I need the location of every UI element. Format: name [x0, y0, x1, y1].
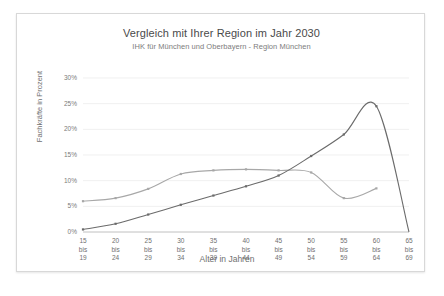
x-tick-line: 25 — [134, 237, 162, 246]
plot-area: Fachkräfte in Prozent Alter in Jahren 0%… — [17, 14, 426, 273]
x-tick-label: 50bis54 — [297, 237, 325, 263]
x-tick-label: 40bis44 — [232, 237, 260, 263]
data-point-marker — [343, 133, 345, 135]
x-tick-line: 44 — [232, 254, 260, 263]
x-tick-line: bis — [199, 246, 227, 255]
x-tick-line: 50 — [297, 237, 325, 246]
x-tick-label: 60bis64 — [362, 237, 390, 263]
x-tick-line: 24 — [102, 254, 130, 263]
x-tick-line: 39 — [199, 254, 227, 263]
x-tick-line: 54 — [297, 254, 325, 263]
data-point-marker — [180, 204, 182, 206]
x-tick-line: bis — [69, 246, 97, 255]
data-point-marker — [245, 168, 247, 170]
chart-plot-svg — [17, 14, 426, 273]
x-tick-line: 60 — [362, 237, 390, 246]
data-point-marker — [82, 228, 84, 230]
x-tick-label: 30bis34 — [167, 237, 195, 263]
series-line-1 — [83, 102, 409, 232]
x-tick-line: 19 — [69, 254, 97, 263]
x-tick-label: 65bis69 — [395, 237, 423, 263]
x-tick-line: 20 — [102, 237, 130, 246]
data-point-marker — [115, 223, 117, 225]
x-tick-line: 15 — [69, 237, 97, 246]
x-tick-line: 45 — [265, 237, 293, 246]
y-axis-title: Fachkräfte in Prozent — [35, 42, 44, 172]
x-tick-line: bis — [134, 246, 162, 255]
x-tick-label: 20bis24 — [102, 237, 130, 263]
x-tick-line: 64 — [362, 254, 390, 263]
data-point-marker — [147, 213, 149, 215]
data-point-marker — [343, 197, 345, 199]
data-point-marker — [375, 187, 377, 189]
data-point-marker — [115, 197, 117, 199]
data-point-marker — [245, 185, 247, 187]
x-tick-line: 49 — [265, 254, 293, 263]
y-tick-label: 30% — [51, 74, 77, 81]
x-tick-line: 65 — [395, 237, 423, 246]
x-tick-line: 30 — [167, 237, 195, 246]
y-tick-label: 20% — [51, 125, 77, 132]
x-tick-line: bis — [362, 246, 390, 255]
y-tick-label: 5% — [51, 202, 77, 209]
x-tick-line: 35 — [199, 237, 227, 246]
data-point-marker — [278, 169, 280, 171]
series-line-0 — [83, 169, 376, 201]
x-tick-label: 55bis59 — [330, 237, 358, 263]
data-point-marker — [82, 200, 84, 202]
data-point-marker — [212, 169, 214, 171]
x-tick-label: 35bis39 — [199, 237, 227, 263]
x-tick-line: bis — [330, 246, 358, 255]
data-point-marker — [212, 194, 214, 196]
x-tick-line: bis — [297, 246, 325, 255]
x-tick-line: bis — [102, 246, 130, 255]
y-tick-label: 15% — [51, 151, 77, 158]
x-tick-line: 55 — [330, 237, 358, 246]
data-point-marker — [147, 188, 149, 190]
x-tick-line: 69 — [395, 254, 423, 263]
x-tick-label: 45bis49 — [265, 237, 293, 263]
x-tick-line: bis — [265, 246, 293, 255]
data-point-marker — [310, 171, 312, 173]
x-tick-line: 40 — [232, 237, 260, 246]
chart-card: Vergleich mit Ihrer Region im Jahr 2030 … — [16, 13, 425, 272]
x-tick-line: bis — [167, 246, 195, 255]
x-tick-line: 34 — [167, 254, 195, 263]
x-tick-label: 15bis19 — [69, 237, 97, 263]
x-tick-label: 25bis29 — [134, 237, 162, 263]
x-tick-line: 59 — [330, 254, 358, 263]
data-point-marker — [310, 155, 312, 157]
x-tick-line: 29 — [134, 254, 162, 263]
data-point-marker — [180, 173, 182, 175]
x-tick-line: bis — [395, 246, 423, 255]
data-point-marker — [278, 174, 280, 176]
data-point-marker — [375, 105, 377, 107]
x-tick-line: bis — [232, 246, 260, 255]
y-tick-label: 0% — [51, 228, 77, 235]
y-tick-label: 25% — [51, 100, 77, 107]
y-tick-label: 10% — [51, 177, 77, 184]
